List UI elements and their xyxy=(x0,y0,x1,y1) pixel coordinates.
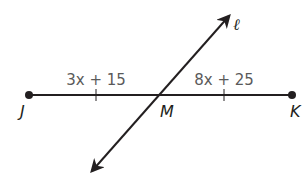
label-line-l: ℓ xyxy=(233,15,240,34)
point-j xyxy=(25,91,33,99)
expression-right: 8x + 25 xyxy=(194,71,254,89)
segment-bisector-diagram: 3x + 15 8x + 25 J M K ℓ xyxy=(0,0,307,177)
label-j: J xyxy=(17,102,25,121)
line-l xyxy=(92,16,229,171)
label-k: K xyxy=(290,102,302,121)
label-m: M xyxy=(160,102,174,121)
expression-left: 3x + 15 xyxy=(66,71,126,89)
point-k xyxy=(288,91,296,99)
